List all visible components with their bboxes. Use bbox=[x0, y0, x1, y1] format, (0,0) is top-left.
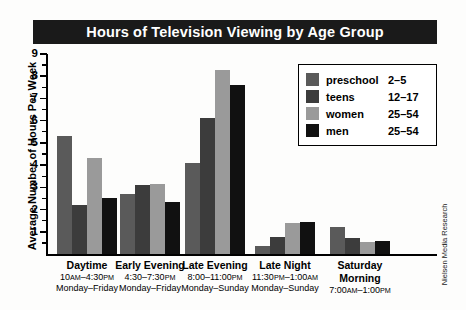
bar bbox=[57, 136, 72, 254]
y-axis-tick bbox=[40, 231, 47, 233]
bar bbox=[87, 158, 102, 254]
y-axis-tick-label: 9 bbox=[8, 48, 38, 60]
bar bbox=[72, 205, 87, 254]
legend-age-range: 12–17 bbox=[388, 91, 419, 103]
legend-age-range: 25–54 bbox=[388, 125, 419, 137]
bar-group bbox=[57, 54, 117, 254]
y-axis-tick bbox=[40, 98, 47, 100]
bar bbox=[375, 241, 390, 254]
bar bbox=[135, 185, 150, 254]
y-axis-tick bbox=[40, 164, 47, 166]
y-axis-tick-label: 4 bbox=[8, 159, 38, 171]
y-axis-tick-label: 1 bbox=[8, 226, 38, 238]
legend-label: preschool bbox=[326, 74, 388, 86]
y-axis-tick bbox=[40, 120, 47, 122]
category-name: SaturdayMorning bbox=[300, 259, 420, 285]
legend-color-swatch bbox=[306, 73, 319, 86]
bar bbox=[285, 223, 300, 254]
legend-item: men25–54 bbox=[306, 122, 428, 139]
y-axis-tick-label: 2 bbox=[8, 204, 38, 216]
source-credit: Nielsen Media Research bbox=[440, 175, 449, 310]
y-axis-tick bbox=[40, 75, 47, 77]
legend-color-swatch bbox=[306, 107, 319, 120]
bar bbox=[330, 227, 345, 254]
bar bbox=[360, 242, 375, 254]
category-time-range: 7:00AM–1:00PM bbox=[300, 285, 420, 296]
bar bbox=[255, 246, 270, 254]
x-axis-category: SaturdayMorning7:00AM–1:00PM bbox=[300, 259, 420, 296]
legend-color-swatch bbox=[306, 90, 319, 103]
legend-item: preschool2–5 bbox=[306, 71, 428, 88]
y-axis-tick bbox=[40, 53, 47, 55]
bar bbox=[230, 85, 245, 254]
chart-legend: preschool2–5teens12–17women25–54men25–54 bbox=[298, 64, 437, 146]
bar bbox=[102, 198, 117, 254]
bar bbox=[200, 118, 215, 254]
y-axis-tick-label: 5 bbox=[8, 137, 38, 149]
bar bbox=[165, 202, 180, 254]
legend-item: teens12–17 bbox=[306, 88, 428, 105]
y-axis-tick bbox=[40, 187, 47, 189]
bar-group bbox=[120, 54, 180, 254]
x-axis-line bbox=[46, 254, 437, 256]
legend-age-range: 2–5 bbox=[388, 74, 406, 86]
y-axis-tick bbox=[40, 142, 47, 144]
chart-title-banner: Hours of Television Viewing by Age Group bbox=[33, 20, 437, 44]
page-title: Hours of Television Viewing by Age Group bbox=[86, 24, 383, 40]
y-axis-tick-label: 3 bbox=[8, 181, 38, 193]
bar bbox=[120, 194, 135, 254]
y-axis-tick-label: 7 bbox=[8, 92, 38, 104]
legend-item: women25–54 bbox=[306, 105, 428, 122]
bar bbox=[215, 70, 230, 254]
bar bbox=[185, 163, 200, 254]
bar bbox=[270, 237, 285, 254]
bar-group bbox=[185, 54, 245, 254]
legend-color-swatch bbox=[306, 124, 319, 137]
y-axis-tick-label: 6 bbox=[8, 115, 38, 127]
bar bbox=[150, 184, 165, 254]
legend-label: women bbox=[326, 108, 388, 120]
bar bbox=[300, 222, 315, 254]
y-axis-tick bbox=[40, 209, 47, 211]
bar bbox=[345, 238, 360, 254]
chart-figure: Hours of Television Viewing by Age Group… bbox=[0, 0, 466, 310]
legend-label: teens bbox=[326, 91, 388, 103]
y-axis-tick-label: 8 bbox=[8, 70, 38, 82]
legend-age-range: 25–54 bbox=[388, 108, 419, 120]
legend-label: men bbox=[326, 125, 388, 137]
